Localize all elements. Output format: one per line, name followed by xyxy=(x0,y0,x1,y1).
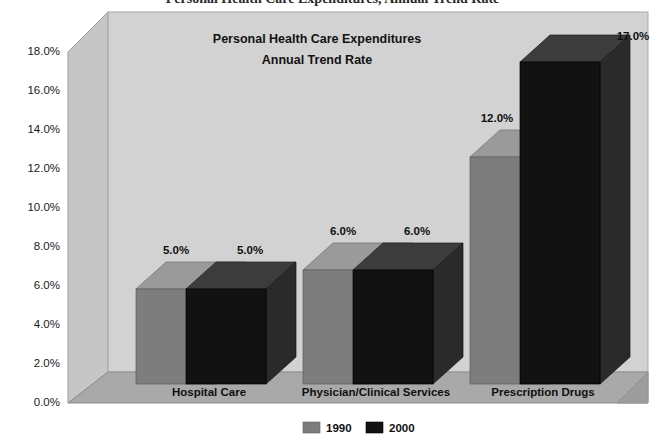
bar-value-label-1990: 6.0% xyxy=(330,225,356,237)
bar-front-face xyxy=(520,62,600,384)
y-tick-label: 4.0% xyxy=(34,318,60,330)
bar-2000-hospital-care[interactable] xyxy=(186,262,296,384)
y-tick-label: 0.0% xyxy=(34,396,60,408)
bar-front-face xyxy=(353,270,433,384)
bar-value-label-1990: 12.0% xyxy=(481,112,514,124)
y-tick-label: 10.0% xyxy=(27,201,60,213)
chart-title-main: Personal Health Care Expenditures xyxy=(213,32,421,46)
category-label: Hospital Care xyxy=(172,386,246,398)
plot-left-wall xyxy=(68,12,108,403)
chart-container: Personal Health Care Expenditures, Annua… xyxy=(0,0,665,447)
bar-group-physician-clinical-services: 6.0% 6.0% Physician/Clinical Services xyxy=(302,225,463,398)
legend-swatch-2000 xyxy=(366,422,383,433)
y-tick-label: 2.0% xyxy=(34,357,60,369)
legend: 1990 2000 xyxy=(303,422,415,434)
bar-2000-physician-clinical-services[interactable] xyxy=(353,243,463,384)
y-tick-label: 6.0% xyxy=(34,279,60,291)
y-tick-label: 12.0% xyxy=(27,162,60,174)
bar-chart-3d: 0.0% 2.0% 4.0% 6.0% 8.0% 10.0% 12.0% 14.… xyxy=(0,0,665,447)
legend-label-2000: 2000 xyxy=(389,422,415,434)
category-label: Prescription Drugs xyxy=(491,386,595,398)
legend-label-1990: 1990 xyxy=(326,422,352,434)
y-axis: 0.0% 2.0% 4.0% 6.0% 8.0% 10.0% 12.0% 14.… xyxy=(27,45,60,408)
y-tick-label: 14.0% xyxy=(27,123,60,135)
category-label: Physician/Clinical Services xyxy=(302,386,450,398)
y-tick-label: 18.0% xyxy=(27,45,60,57)
bar-value-label-2000: 5.0% xyxy=(237,244,263,256)
bar-value-label-1990: 5.0% xyxy=(163,244,189,256)
chart-title-sub: Annual Trend Rate xyxy=(262,53,372,67)
legend-item-1990[interactable]: 1990 xyxy=(303,422,352,434)
bar-side-face xyxy=(600,35,630,384)
legend-swatch-1990 xyxy=(303,422,320,433)
bar-value-label-2000: 17.0% xyxy=(617,30,650,42)
bar-2000-prescription-drugs[interactable] xyxy=(520,35,630,384)
bar-front-face xyxy=(186,289,266,384)
bar-group-hospital-care: 5.0% 5.0% Hospital Care xyxy=(136,244,296,398)
y-tick-label: 16.0% xyxy=(27,84,60,96)
y-tick-label: 8.0% xyxy=(34,240,60,252)
bar-value-label-2000: 6.0% xyxy=(404,225,430,237)
legend-item-2000[interactable]: 2000 xyxy=(366,422,415,434)
